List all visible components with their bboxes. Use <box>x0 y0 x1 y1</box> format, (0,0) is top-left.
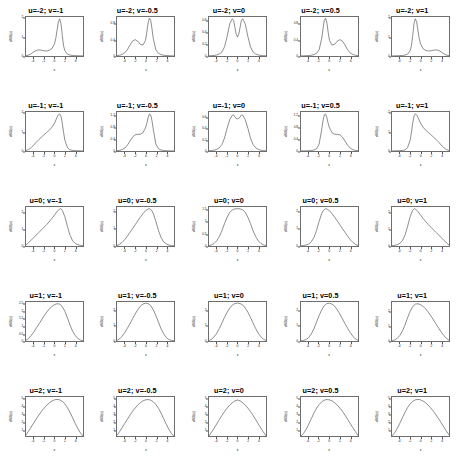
plot-area <box>391 16 450 57</box>
y-axis-label-text: dNIG(x) <box>10 316 13 327</box>
x-tick-label: 4 <box>441 155 443 158</box>
panel-title: u=-2; v=0.5 <box>301 7 340 14</box>
plot-area <box>208 206 267 247</box>
plot-row: dNIG(x)012 <box>191 301 267 342</box>
panel-0: u=-2; v=-1dNIG(x)012-4-2024x <box>0 0 92 95</box>
x-tick-label: -2 <box>42 440 45 443</box>
y-axis-ticks: 012 <box>381 206 391 247</box>
x-tick-label: 0 <box>328 440 330 443</box>
density-curve <box>301 400 358 436</box>
panel-title: u=-2; v=0 <box>213 7 245 14</box>
panel-title: u=1; v=-1 <box>30 292 62 299</box>
x-axis: -4-2024 <box>116 342 175 353</box>
panel-title: u=2; v=0.5 <box>303 387 339 394</box>
y-axis-ticks: 00.20.40.6 <box>198 16 208 57</box>
y-axis-ticks: 00.511.522.5 <box>15 301 25 342</box>
plot-row: dNIG(x)012 <box>8 111 84 152</box>
x-axis-label: x <box>116 449 175 452</box>
y-axis-label: dNIG(x) <box>99 301 106 342</box>
x-tick-label: 0 <box>53 250 55 253</box>
density-curve <box>209 209 266 246</box>
y-axis-label: dNIG(x) <box>8 396 15 437</box>
x-axis-label: x <box>208 69 267 72</box>
x-tick-label: -4 <box>123 250 126 253</box>
x-tick-label: 0 <box>145 60 147 63</box>
x-tick-label: 4 <box>75 345 77 348</box>
plot-row: dNIG(x)012 <box>8 206 84 247</box>
plot-row: dNIG(x)12345 <box>191 396 267 437</box>
y-axis-label: dNIG(x) <box>99 111 106 152</box>
x-tick-label: 2 <box>156 60 158 63</box>
plot-row: dNIG(x)012 <box>8 16 84 57</box>
x-tick-label: 2 <box>430 345 432 348</box>
x-axis-label: x <box>25 449 84 452</box>
x-tick-label: 4 <box>75 155 77 158</box>
panel-title: u=0; v=-0.5 <box>118 197 157 204</box>
x-tick-label: 0 <box>420 155 422 158</box>
y-axis-label: dNIG(x) <box>283 16 290 57</box>
x-tick-label: 2 <box>430 60 432 63</box>
x-tick-label: -4 <box>123 60 126 63</box>
x-tick-label: 4 <box>441 60 443 63</box>
plot-row: dNIG(x)00.511.5 <box>191 206 267 247</box>
density-curve <box>117 303 174 341</box>
y-axis-label: dNIG(x) <box>99 206 106 247</box>
density-plot-grid: u=-2; v=-1dNIG(x)012-4-2024xu=-2; v=-0.5… <box>0 0 458 475</box>
x-axis-label: x <box>208 259 267 262</box>
plot-row: dNIG(x)012 <box>99 301 175 342</box>
x-axis: -4-2024 <box>25 57 84 68</box>
x-axis: -4-2024 <box>116 437 175 448</box>
x-tick-label: -4 <box>31 440 34 443</box>
y-axis-label-text: dNIG(x) <box>376 221 379 232</box>
density-curve <box>301 114 358 151</box>
panel-22: u=2; v=0dNIG(x)12345-4-2024x <box>183 380 275 475</box>
y-axis-label-text: dNIG(x) <box>193 126 196 137</box>
panel-title: u=-1; v=-0.5 <box>117 102 158 109</box>
x-tick-label: 4 <box>166 250 168 253</box>
panel-4: u=-2; v=1dNIG(x)012-4-2024x <box>366 0 458 95</box>
x-tick-label: 0 <box>420 250 422 253</box>
plot-area <box>25 301 84 342</box>
panel-1: u=-2; v=-0.5dNIG(x)00.40.8-4-2024x <box>92 0 184 95</box>
density-curve <box>209 19 266 56</box>
x-axis-label: x <box>116 164 175 167</box>
x-tick-label: -4 <box>123 345 126 348</box>
plot-area <box>25 111 84 152</box>
x-tick-label: -2 <box>134 250 137 253</box>
y-axis-label: dNIG(x) <box>283 301 290 342</box>
x-axis-label: x <box>300 69 359 72</box>
x-tick-label: -2 <box>408 60 411 63</box>
plot-area <box>208 301 267 342</box>
y-axis-label: dNIG(x) <box>191 16 198 57</box>
plot-row: dNIG(x)00.40.81.2 <box>283 111 359 152</box>
x-tick-label: 2 <box>64 440 66 443</box>
density-curve <box>26 400 83 436</box>
x-tick-label: 4 <box>75 60 77 63</box>
y-axis-label: dNIG(x) <box>374 301 381 342</box>
x-tick-label: 0 <box>328 60 330 63</box>
panel-title: u=0; v=1 <box>397 197 427 204</box>
y-axis-label-text: dNIG(x) <box>10 221 13 232</box>
x-tick-label: 4 <box>441 440 443 443</box>
plot-row: dNIG(x)00.511.522.5 <box>8 301 84 342</box>
panel-title: u=0; v=0.5 <box>303 197 339 204</box>
x-tick-label: 0 <box>53 345 55 348</box>
x-axis: -4-2024 <box>391 57 450 68</box>
x-tick-label: -4 <box>398 345 401 348</box>
x-tick-label: 4 <box>258 345 260 348</box>
plot-area <box>116 301 175 342</box>
panel-title: u=1; v=-0.5 <box>118 292 157 299</box>
x-tick-label: 4 <box>258 250 260 253</box>
x-tick-label: 4 <box>166 155 168 158</box>
x-tick-label: -4 <box>306 345 309 348</box>
x-axis-label: x <box>391 449 450 452</box>
x-axis-label: x <box>25 69 84 72</box>
panel-5: u=-1; v=-1dNIG(x)012-4-2024x <box>0 95 92 190</box>
y-axis-label-text: dNIG(x) <box>285 316 288 327</box>
panel-8: u=-1; v=0.5dNIG(x)00.40.81.2-4-2024x <box>275 95 367 190</box>
x-tick-label: 4 <box>350 345 352 348</box>
x-tick-label: -2 <box>134 155 137 158</box>
plot-area <box>391 206 450 247</box>
x-axis-label: x <box>208 164 267 167</box>
plot-area <box>391 396 450 437</box>
